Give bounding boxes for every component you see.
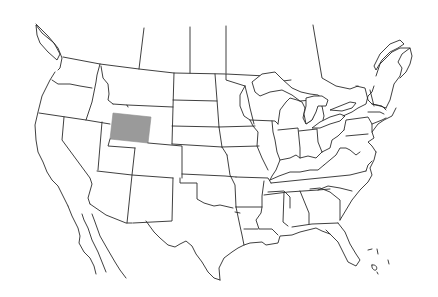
- state-border: [90, 204, 132, 223]
- highlighted-state-wyoming[interactable]: [110, 113, 151, 143]
- us-outline-map: [0, 0, 438, 297]
- state-border: [283, 193, 288, 226]
- west-coast: [35, 72, 68, 206]
- baja-california-gulf: [82, 214, 106, 272]
- caribbean-island: [372, 265, 377, 270]
- state-border: [215, 74, 222, 147]
- state-border: [322, 130, 344, 152]
- state-border: [240, 86, 268, 170]
- state-border: [280, 152, 322, 160]
- canada-border-line: [313, 25, 358, 89]
- caribbean-island: [388, 260, 389, 264]
- state-border: [278, 128, 300, 158]
- state-border: [300, 191, 309, 224]
- vancouver-island: [36, 25, 60, 60]
- state-border: [113, 104, 128, 107]
- state-border: [235, 212, 240, 213]
- gulf-coast: [219, 228, 330, 280]
- state-border: [86, 64, 100, 120]
- canada-border-line: [139, 28, 144, 69]
- state-border: [133, 178, 173, 223]
- atlantic-coast: [326, 223, 360, 266]
- state-border: [219, 126, 255, 127]
- state-border: [318, 186, 352, 191]
- lake-erie: [312, 114, 345, 128]
- state-border: [127, 105, 173, 107]
- state-border: [62, 117, 92, 204]
- us-mexico-border: [146, 221, 220, 280]
- state-border: [101, 66, 113, 104]
- state-border: [236, 177, 271, 183]
- state-border: [222, 146, 259, 147]
- state-border: [292, 223, 338, 227]
- state-border: [346, 134, 368, 136]
- state-border: [270, 165, 324, 180]
- state-border: [52, 80, 92, 88]
- state-border: [39, 113, 110, 124]
- state-border: [173, 100, 217, 101]
- caribbean-island: [377, 249, 378, 254]
- state-border: [271, 171, 366, 183]
- state-border: [344, 117, 372, 132]
- lake-ontario: [330, 102, 356, 111]
- state-border: [368, 112, 384, 114]
- caribbean-island: [377, 272, 378, 274]
- state-border: [172, 73, 174, 144]
- state-border: [226, 74, 245, 86]
- new-england-coast: [386, 48, 412, 108]
- state-border: [127, 148, 135, 223]
- state-border: [180, 178, 233, 208]
- state-border: [97, 171, 173, 178]
- state-border: [227, 155, 236, 207]
- lake-michigan-shore: [245, 86, 254, 124]
- state-border: [148, 143, 182, 178]
- state-border: [172, 126, 219, 127]
- state-border: [310, 188, 340, 220]
- us-canada-border: [63, 57, 291, 81]
- state-border: [324, 148, 360, 165]
- state-border: [98, 122, 102, 170]
- state-border: [256, 181, 278, 235]
- caribbean-island: [368, 249, 372, 250]
- state-border: [182, 174, 236, 177]
- mexico-gulf-coast: [92, 214, 126, 278]
- state-border: [299, 129, 322, 152]
- state-border: [356, 86, 386, 108]
